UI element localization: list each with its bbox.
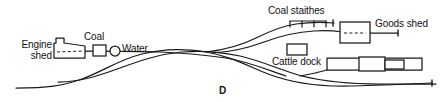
- loop-siding-connector: [300, 70, 327, 76]
- label-engine-shed-line2: shed: [31, 50, 52, 61]
- label-cattle-dock: Cattle dock: [272, 57, 321, 68]
- engine-shed-symbol: [54, 38, 85, 58]
- loop-siding-platform-small-symbol: [385, 60, 404, 69]
- label-goods-shed: Goods shed: [375, 19, 428, 30]
- label-engine-shed-line1: Engine: [21, 39, 52, 50]
- track-plan-diagram: Engine shed Coal Water Coal staithes Goo…: [0, 0, 446, 102]
- loop-siding-platform-large-symbol: [359, 57, 385, 71]
- water-tower-symbol: [110, 46, 120, 56]
- label-coal: Coal: [84, 32, 104, 43]
- cattle-dock-symbol: [287, 44, 307, 55]
- coal-stage-symbol: [93, 45, 106, 56]
- label-plan-id: D: [219, 86, 226, 97]
- label-coal-staithes: Coal staithes: [268, 6, 325, 17]
- goods-shed-symbol: [340, 22, 370, 43]
- label-engine-shed: Engine shed: [6, 39, 52, 61]
- goods-shed-siding: [212, 31, 342, 53]
- coal-staithes-siding: [206, 22, 334, 52]
- engine-shed-outline: [54, 38, 85, 58]
- label-water: Water: [122, 44, 148, 55]
